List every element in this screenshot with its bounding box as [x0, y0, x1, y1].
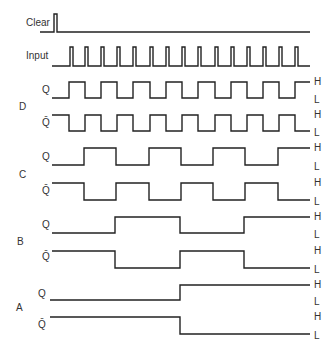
- A_Qbar-high-label: H: [314, 312, 321, 322]
- A_Q-low-label: L: [314, 297, 320, 307]
- group-label-a: A: [16, 303, 23, 313]
- B_Qbar-label: Q̄: [42, 252, 50, 262]
- B_Q-low-label: L: [314, 230, 320, 240]
- A_Qbar-waveform: [50, 317, 310, 334]
- group-label-b: B: [17, 237, 24, 247]
- B_Qbar-waveform: [52, 251, 310, 268]
- clear-waveform: [40, 14, 310, 32]
- C_Q-low-label: L: [314, 162, 320, 172]
- C_Q-label: Q: [42, 152, 50, 162]
- C_Q-waveform: [52, 148, 310, 165]
- C_Qbar-waveform: [52, 183, 310, 200]
- C_Qbar-low-label: L: [314, 197, 320, 207]
- clear-label: Clear: [26, 18, 50, 28]
- group-label-c: C: [19, 170, 26, 180]
- timing-diagram: [0, 0, 332, 352]
- D_Qbar-label: Q̄: [42, 118, 50, 128]
- D_Qbar-high-label: H: [314, 110, 321, 120]
- A_Q-waveform: [50, 285, 310, 300]
- B_Qbar-low-label: L: [314, 265, 320, 275]
- D_Qbar-waveform: [52, 115, 310, 131]
- B_Qbar-high-label: H: [314, 246, 321, 256]
- A_Qbar-label: Q̄: [38, 320, 46, 330]
- D_Q-low-label: L: [314, 95, 320, 105]
- B_Q-high-label: H: [314, 212, 321, 222]
- A_Q-high-label: H: [314, 280, 321, 290]
- A_Q-label: Q: [38, 289, 46, 299]
- C_Qbar-label: Q̄: [42, 186, 50, 196]
- D_Qbar-low-label: L: [314, 128, 320, 138]
- C_Qbar-high-label: H: [314, 178, 321, 188]
- D_Q-high-label: H: [314, 77, 321, 87]
- D_Q-waveform: [52, 82, 310, 98]
- D_Q-label: Q: [42, 85, 50, 95]
- B_Q-label: Q: [42, 220, 50, 230]
- input-waveform: [52, 47, 310, 66]
- A_Qbar-low-label: L: [314, 331, 320, 341]
- group-label-d: D: [19, 102, 26, 112]
- B_Q-waveform: [52, 217, 310, 233]
- C_Q-high-label: H: [314, 143, 321, 153]
- input-label: Input: [26, 51, 48, 61]
